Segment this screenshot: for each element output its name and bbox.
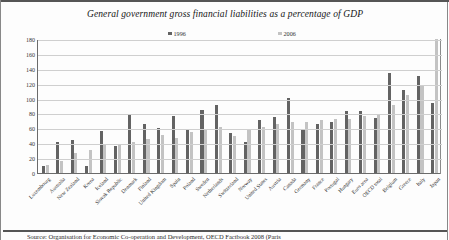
bar-1996 [143, 124, 146, 173]
bar-group [67, 39, 81, 173]
bar-group [341, 39, 355, 173]
bar-group [197, 39, 211, 173]
bar-2006 [89, 150, 92, 173]
bar-1996 [388, 73, 391, 174]
bar-1996 [359, 111, 362, 173]
bar-group [384, 39, 398, 173]
bar-group [269, 39, 283, 173]
bar-1996 [374, 118, 377, 173]
bar-group [182, 39, 196, 173]
bar-1996 [301, 130, 304, 173]
bar-1996 [316, 124, 319, 173]
bar-1996 [229, 133, 232, 173]
bar-2006 [334, 119, 337, 173]
bar-2006 [247, 129, 250, 173]
bar-group [370, 39, 384, 173]
legend-item-1996: 1996 [168, 30, 186, 37]
bar-2006 [60, 161, 63, 173]
bar-1996 [402, 90, 405, 173]
chart-title: General government gross financial liabi… [1, 9, 449, 19]
bar-group [254, 39, 268, 173]
gridline [38, 100, 442, 101]
gridline [38, 70, 442, 71]
bar-groups [38, 39, 442, 173]
y-axis-tick-label: 180 [26, 37, 35, 43]
bar-group [240, 39, 254, 173]
bar-1996 [244, 142, 247, 173]
x-axis-label: Japan [428, 176, 441, 189]
bar-1996 [186, 130, 189, 173]
bar-group [298, 39, 312, 173]
bar-group [326, 39, 340, 173]
gridline [38, 129, 442, 130]
x-axis-label: Luxembourg [28, 176, 52, 200]
x-axis-label: Korea [81, 176, 95, 190]
bar-group [96, 39, 110, 173]
y-axis-tick-label: 160 [26, 52, 35, 58]
bar-1996 [56, 142, 59, 173]
gridline [38, 159, 442, 160]
bar-1996 [258, 120, 261, 173]
x-axis-label: Italy [415, 176, 426, 187]
plot-area [37, 40, 441, 174]
y-axis: 020406080100120140160180 [15, 40, 37, 174]
bar-2006 [219, 127, 222, 173]
bar-2006 [320, 120, 323, 173]
source-note: Source: Organisation for Economic Co-ope… [27, 233, 447, 240]
bar-group [355, 39, 369, 173]
bar-2006 [233, 136, 236, 173]
bar-group [413, 39, 427, 173]
x-axis-label: Austria [267, 176, 282, 191]
bar-2006 [406, 95, 409, 173]
x-axis-label: Spain [168, 176, 181, 189]
y-axis-tick-label: 80 [29, 111, 35, 117]
bar-2006 [435, 39, 438, 173]
legend-swatch-2006 [278, 32, 282, 36]
bar-group [139, 39, 153, 173]
bottom-divider [3, 230, 447, 232]
y-axis-tick-label: 100 [26, 97, 35, 103]
y-axis-tick-label: 120 [26, 82, 35, 88]
gridline [38, 114, 442, 115]
bar-2006 [190, 132, 193, 173]
bar-1996 [100, 131, 103, 173]
bar-1996 [287, 98, 290, 173]
bar-2006 [161, 135, 164, 173]
gridline [38, 144, 442, 145]
x-axis-label: Greece [397, 176, 412, 191]
gridline [38, 55, 442, 56]
bar-group [211, 39, 225, 173]
bar-1996 [345, 111, 348, 173]
y-axis-tick-label: 0 [32, 171, 35, 177]
bar-group [38, 39, 52, 173]
legend-item-2006: 2006 [278, 30, 296, 37]
bar-1996 [157, 128, 160, 173]
bar-group [81, 39, 95, 173]
bar-2006 [204, 130, 207, 173]
bar-group [283, 39, 297, 173]
bar-1996 [85, 166, 88, 173]
y-axis-tick-label: 60 [29, 126, 35, 132]
y-axis-tick-label: 140 [26, 67, 35, 73]
bar-group [427, 39, 441, 173]
plot-area-wrapper: 020406080100120140160180 [1, 40, 449, 176]
legend-label-2006: 2006 [284, 30, 296, 37]
bar-2006 [276, 124, 279, 173]
bar-2006 [46, 165, 49, 173]
bar-1996 [42, 166, 45, 173]
bar-group [225, 39, 239, 173]
bar-group [399, 39, 413, 173]
bar-group [153, 39, 167, 173]
bar-2006 [262, 127, 265, 173]
legend-label-1996: 1996 [174, 30, 186, 37]
gridline [38, 40, 442, 41]
y-axis-tick-label: 40 [29, 141, 35, 147]
top-divider [1, 0, 449, 2]
bar-group [312, 39, 326, 173]
bar-group [168, 39, 182, 173]
bar-2006 [348, 119, 351, 173]
legend-swatch-1996 [168, 32, 172, 36]
bar-group [52, 39, 66, 173]
x-axis-labels: LuxembourgAustraliaNew ZealandKoreaIcela… [37, 176, 441, 230]
